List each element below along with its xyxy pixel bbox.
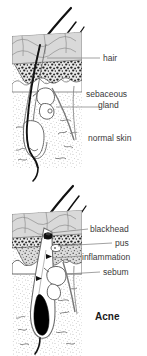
normal-skin-block [12, 30, 82, 176]
caption-normal-skin: normal skin [88, 133, 132, 143]
label-hair: hair [103, 53, 117, 63]
caption-acne: Acne [95, 311, 120, 322]
sebaceous-gland-lobe-enlarged [47, 266, 66, 285]
epidermis-layer [12, 32, 82, 64]
skin-cross-section-figure: hair sebaceous gland normal skin [0, 0, 147, 356]
label-pus: pus [115, 238, 129, 248]
label-sebaceous-gland-line2: gland [98, 100, 119, 110]
label-sebum: sebum [103, 267, 129, 277]
label-sebaceous-gland-line1: sebaceous [86, 89, 127, 99]
label-blackhead: blackhead [90, 224, 129, 234]
sebaceous-acinus-cell [48, 109, 52, 113]
sebaceous-gland-lobe-enlarged-lower [47, 284, 60, 300]
label-inflammation: inflammation [82, 252, 130, 262]
pus-cell [54, 247, 56, 249]
acne-skin-block [12, 210, 82, 356]
